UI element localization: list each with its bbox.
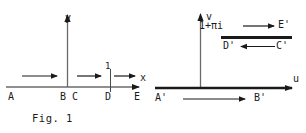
x-axis-label: x	[140, 73, 146, 83]
pi-level-annotation: 1+πi	[199, 21, 223, 31]
point-label-a: A	[8, 92, 14, 102]
point-label-d: D	[105, 92, 111, 102]
x-axis-unit-tick-label: 1	[105, 62, 110, 71]
point-label-b-prime: B'	[254, 93, 266, 103]
figure-container: y x 1 A B C D E Fig. 1 v u 1+πi E' D' C'…	[0, 0, 306, 133]
figure-caption: Fig. 1	[32, 113, 73, 124]
point-label-e-prime: E'	[278, 20, 290, 30]
point-label-e: E	[134, 92, 140, 102]
right-panel-group	[155, 14, 292, 99]
point-label-d-prime: D'	[223, 41, 235, 51]
u-axis-label: u	[293, 74, 299, 84]
y-axis-label: y	[65, 13, 71, 23]
point-label-b: B	[60, 92, 66, 102]
point-label-a-prime: A'	[155, 93, 167, 103]
left-panel-group	[6, 15, 139, 92]
point-label-c-prime: C'	[276, 41, 288, 51]
point-label-c: C	[72, 92, 78, 102]
